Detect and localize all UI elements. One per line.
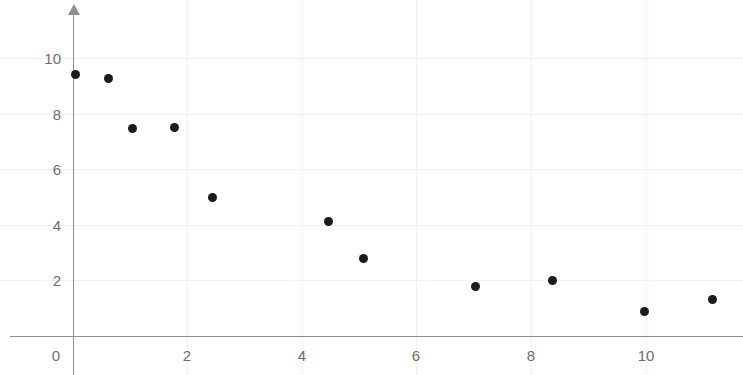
data-point	[359, 254, 368, 263]
data-point	[548, 276, 557, 285]
y-axis-arrow-icon	[68, 4, 80, 15]
data-point	[208, 193, 217, 202]
scatter-chart: 0246810246810	[0, 0, 743, 375]
data-point	[640, 307, 649, 316]
y-axis-line	[73, 13, 74, 375]
gridline-vertical	[302, 0, 303, 375]
x-axis-tick-label: 2	[183, 348, 191, 363]
data-point	[104, 74, 113, 83]
y-axis-tick-label: 6	[53, 162, 61, 177]
data-point	[128, 124, 137, 133]
gridline-vertical	[531, 0, 532, 375]
y-axis-tick-label: 2	[53, 273, 61, 288]
plot-area: 0246810246810	[0, 0, 743, 375]
x-axis-tick-label: 6	[412, 348, 420, 363]
data-point	[71, 70, 80, 79]
x-axis-tick-label: 8	[527, 348, 535, 363]
gridline-horizontal	[0, 169, 743, 170]
data-point	[708, 295, 717, 304]
x-axis-tick-label: 4	[298, 348, 306, 363]
gridline-horizontal	[0, 280, 743, 281]
y-axis-tick-label: 8	[53, 107, 61, 122]
gridline-horizontal	[0, 58, 743, 59]
y-axis-tick-label: 4	[53, 218, 61, 233]
data-point	[170, 123, 179, 132]
x-axis-tick-label: 0	[52, 348, 60, 363]
gridline-vertical	[187, 0, 188, 375]
gridline-vertical	[416, 0, 417, 375]
gridline-horizontal	[0, 114, 743, 115]
y-axis-tick-label: 10	[44, 51, 61, 66]
x-axis-tick-label: 10	[638, 348, 655, 363]
gridline-vertical	[646, 0, 647, 375]
gridline-horizontal	[0, 225, 743, 226]
x-axis-line	[10, 336, 743, 337]
data-point	[471, 282, 480, 291]
